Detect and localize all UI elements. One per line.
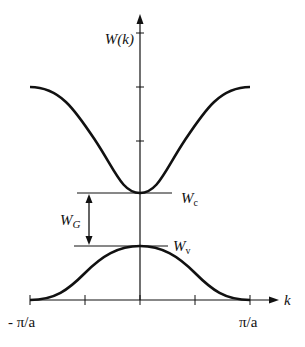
y-axis: W(k) <box>105 14 144 300</box>
x-axis-arrow-icon <box>269 297 279 304</box>
x-tick-label-right: π/a <box>239 314 258 330</box>
band-gap-label: WG <box>60 212 81 230</box>
conduction-band-label: Wc <box>181 190 199 208</box>
x-tick-label-left: - π/a <box>8 314 35 330</box>
x-axis-label: k <box>284 292 291 308</box>
y-axis-arrow-icon <box>137 14 144 24</box>
arrow-up-icon <box>86 194 93 203</box>
arrow-down-icon <box>86 236 93 245</box>
y-axis-label: W(k) <box>105 31 134 48</box>
band-gap-arrow <box>86 194 93 245</box>
valence-band-label: Wv <box>173 238 191 256</box>
band-diagram: W(k) k - π/a π/a Wc Wv WG <box>0 0 305 347</box>
